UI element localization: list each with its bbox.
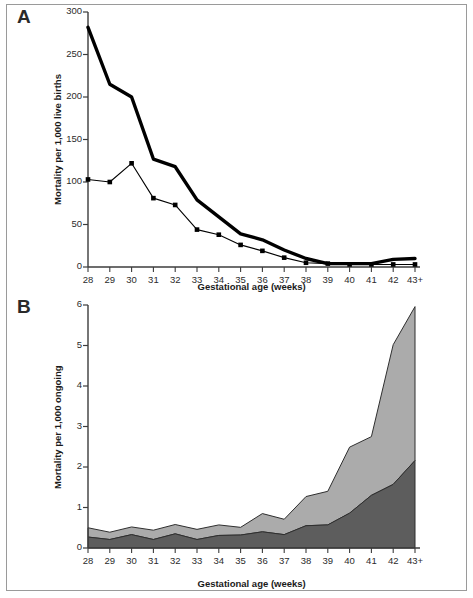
panel-b-y-tick-label: 6 <box>42 298 82 309</box>
panel-a-data-marker <box>86 177 91 182</box>
panel-a-series-thin-line-with-square-markers <box>88 163 415 264</box>
panel-b-x-tick-label: 43+ <box>401 555 429 566</box>
panel-b-y-tick-label: 4 <box>42 379 82 390</box>
panel-a-data-marker <box>173 203 178 208</box>
panel-b-y-tick-label: 2 <box>42 460 82 471</box>
panel-a-series-thick-line <box>88 27 415 263</box>
panel-a-y-tick-label: 50 <box>42 218 82 229</box>
panel-a-data-marker <box>413 262 418 267</box>
panel-b-y-tick-label: 5 <box>42 339 82 350</box>
panel-a-y-tick-label: 100 <box>42 175 82 186</box>
panel-a-data-marker <box>347 262 352 267</box>
panel-a-data-marker <box>108 180 113 185</box>
panel-a-data-marker <box>217 232 222 237</box>
panel-a-y-tick-label: 250 <box>42 48 82 59</box>
panel-b-y-tick-label: 3 <box>42 420 82 431</box>
panel-a-data-marker <box>238 243 243 248</box>
figure-container: A Mortality per 1,000 live births Gestat… <box>0 0 473 598</box>
panel-a-x-tick-label: 43+ <box>401 274 429 285</box>
panel-a-data-marker <box>326 261 331 266</box>
panel-a-data-marker <box>195 227 200 232</box>
panel-a-data-marker <box>151 196 156 201</box>
panel-a-data-marker <box>391 262 396 267</box>
panel-a-y-tick-label: 300 <box>42 5 82 16</box>
panel-b-y-tick-label: 1 <box>42 501 82 512</box>
panel-a-plot <box>0 0 473 300</box>
panel-a-y-tick-label: 150 <box>42 133 82 144</box>
panel-b-y-tick-label: 0 <box>42 541 82 552</box>
panel-a: A Mortality per 1,000 live births Gestat… <box>0 0 473 300</box>
panel-a-y-tick-label: 0 <box>42 260 82 271</box>
panel-b: B Mortality per 1,000 ongoing Gestationa… <box>0 292 473 598</box>
panel-a-y-tick-label: 200 <box>42 90 82 101</box>
panel-a-data-marker <box>129 161 134 166</box>
panel-a-data-marker <box>369 262 374 267</box>
panel-a-data-marker <box>304 260 309 265</box>
panel-a-data-marker <box>282 255 287 260</box>
panel-a-data-marker <box>260 249 265 254</box>
